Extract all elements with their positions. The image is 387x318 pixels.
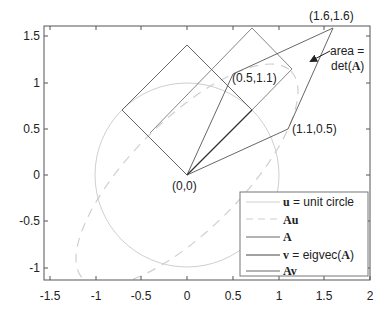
area-arrow xyxy=(311,51,330,61)
x-tick-label: -0.5 xyxy=(131,289,152,303)
eigvec-line xyxy=(187,110,252,175)
eigenvector-figure: -1.5 -1 -0.5 0 0.5 1 1.5 2 1.5 1 0.5 0 -… xyxy=(0,0,387,318)
x-tick-label: -1 xyxy=(91,289,102,303)
legend-item-au: Au xyxy=(283,213,299,227)
y-tick-label: -1 xyxy=(29,261,40,275)
label-1.1-0.5: (1.1,0.5) xyxy=(292,122,337,136)
x-tick-label: 1 xyxy=(276,289,283,303)
area-label-line1: area = xyxy=(330,44,364,58)
y-tick-label: 0 xyxy=(33,168,40,182)
annotations: (1.6,1.6) (0.5,1.1) (1.1,0.5) (0,0) area… xyxy=(172,9,364,193)
y-tick-label: -0.5 xyxy=(19,214,40,228)
x-tick-label: 0 xyxy=(184,289,191,303)
x-tick-label: -1.5 xyxy=(40,289,61,303)
y-tick-label: 1.5 xyxy=(23,29,40,43)
area-label-line2: det(A) xyxy=(331,59,364,73)
label-1.6-1.6: (1.6,1.6) xyxy=(309,9,354,23)
legend: u = unit circle Au A v = eigvec(A) Av xyxy=(240,192,368,278)
x-tick-label: 1.5 xyxy=(316,289,333,303)
x-tick-label: 2 xyxy=(367,289,374,303)
y-tick-label: 0.5 xyxy=(23,122,40,136)
label-0.5-1.1: (0.5,1.1) xyxy=(232,71,277,85)
legend-item-eigvec: v = eigvec(A) xyxy=(283,248,354,262)
x-tick-label: 0.5 xyxy=(225,289,242,303)
legend-item-unit-circle: u = unit circle xyxy=(283,195,354,209)
legend-item-a: A xyxy=(283,230,292,244)
legend-item-av: Av xyxy=(283,264,297,278)
y-tick-label: 1 xyxy=(33,76,40,90)
eigvec-square xyxy=(122,45,252,175)
label-origin: (0,0) xyxy=(172,179,197,193)
